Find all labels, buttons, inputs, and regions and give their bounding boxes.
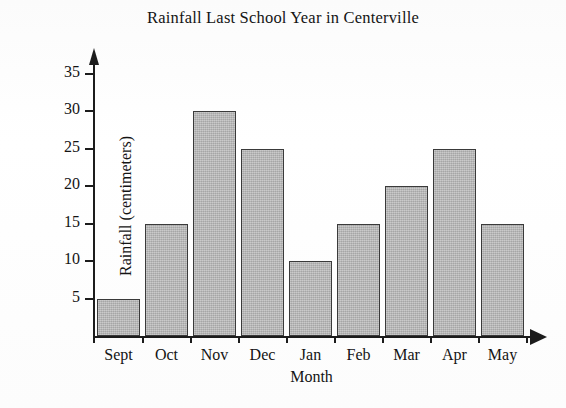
y-axis-tick: 25 — [85, 148, 93, 150]
bar — [433, 149, 476, 337]
x-axis-line — [93, 336, 530, 338]
y-axis-tick: 5 — [85, 298, 93, 300]
x-axis-tick — [93, 336, 95, 343]
y-axis-tick: 15 — [85, 223, 93, 225]
y-axis-tick: 30 — [85, 110, 93, 112]
x-axis-tick — [526, 336, 528, 343]
y-axis-tick-label: 25 — [64, 138, 80, 156]
y-axis-tick: 35 — [85, 73, 93, 75]
rainfall-bar-chart: Rainfall Last School Year in Centerville… — [0, 0, 566, 408]
y-axis-tick-label: 10 — [64, 250, 80, 268]
x-axis-tick — [190, 336, 192, 343]
y-axis-line — [93, 53, 95, 338]
x-axis-tick — [478, 336, 480, 343]
y-axis-arrow-icon — [89, 48, 99, 65]
x-axis-tick-label: May — [472, 345, 533, 365]
bar — [193, 111, 236, 336]
bar — [481, 224, 524, 337]
bar — [145, 224, 188, 337]
x-axis-tick — [382, 336, 384, 343]
plot-area: 5101520253035 SeptOctNovDecJanFebMarAprM… — [93, 45, 548, 338]
x-axis-tick — [142, 336, 144, 343]
bar — [337, 224, 380, 337]
x-axis-title: Month — [93, 368, 530, 386]
chart-title: Rainfall Last School Year in Centerville — [0, 8, 566, 28]
y-axis-tick-label: 35 — [64, 63, 80, 81]
y-axis-tick-label: 30 — [64, 100, 80, 118]
x-axis-tick — [430, 336, 432, 343]
x-axis-tick — [334, 336, 336, 343]
y-axis-tick-label: 20 — [64, 175, 80, 193]
y-axis-tick: 20 — [85, 185, 93, 187]
y-axis-title: Rainfall (centimeters) — [117, 91, 135, 321]
x-axis-tick — [286, 336, 288, 343]
y-axis-tick: 10 — [85, 260, 93, 262]
bar — [289, 261, 332, 336]
y-axis-tick-label: 15 — [64, 213, 80, 231]
bar — [241, 149, 284, 337]
x-axis-tick — [238, 336, 240, 343]
y-axis-tick-label: 5 — [72, 288, 80, 306]
x-axis-arrow-icon — [530, 329, 547, 345]
bar — [385, 186, 428, 336]
